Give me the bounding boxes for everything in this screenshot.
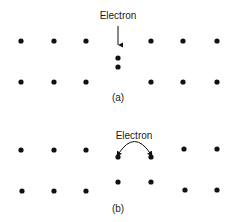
lattice-atom bbox=[214, 79, 219, 84]
interstitial-atoms-a bbox=[115, 55, 120, 69]
lattice-atom bbox=[180, 38, 185, 43]
lattice-atom bbox=[51, 188, 56, 193]
hop-arc-arrow-icon bbox=[119, 142, 150, 154]
panel-b: Electron (b) bbox=[18, 130, 219, 214]
displaced-atom bbox=[148, 154, 153, 159]
lattice-atom bbox=[83, 188, 88, 193]
lattice-atoms-b bbox=[18, 146, 219, 193]
lattice-atom bbox=[83, 38, 88, 43]
caption-b: (b) bbox=[112, 203, 124, 214]
displaced-atoms-b bbox=[115, 154, 153, 184]
lattice-atom bbox=[214, 146, 219, 151]
panel-a: Electron (a) bbox=[18, 10, 219, 103]
displaced-atom bbox=[148, 179, 153, 184]
lattice-atoms-a bbox=[18, 38, 219, 84]
lattice-atom bbox=[51, 79, 56, 84]
caption-a: (a) bbox=[112, 92, 124, 103]
lattice-atom bbox=[51, 38, 56, 43]
lattice-atom bbox=[181, 146, 186, 151]
lattice-atom bbox=[18, 38, 23, 43]
lattice-atom bbox=[51, 147, 56, 152]
lattice-atom bbox=[180, 79, 185, 84]
lattice-atom bbox=[214, 38, 219, 43]
diagram-svg: Electron (a) Electron (b) bbox=[0, 0, 234, 222]
electron-lattice-diagram: Electron (a) Electron (b) bbox=[0, 0, 234, 222]
lattice-atom bbox=[18, 147, 23, 152]
lattice-atom bbox=[148, 38, 153, 43]
displaced-atom bbox=[115, 154, 120, 159]
interstitial-atom bbox=[115, 64, 120, 69]
electron-label-a: Electron bbox=[100, 10, 137, 21]
lattice-atom bbox=[182, 187, 187, 192]
lattice-atom bbox=[19, 188, 24, 193]
displaced-atom bbox=[115, 179, 120, 184]
lattice-atom bbox=[214, 187, 219, 192]
interstitial-atom bbox=[115, 55, 120, 60]
lattice-atom bbox=[18, 79, 23, 84]
electron-label-b: Electron bbox=[116, 130, 153, 141]
lattice-atom bbox=[83, 79, 88, 84]
lattice-atom bbox=[148, 79, 153, 84]
lattice-atom bbox=[83, 147, 88, 152]
